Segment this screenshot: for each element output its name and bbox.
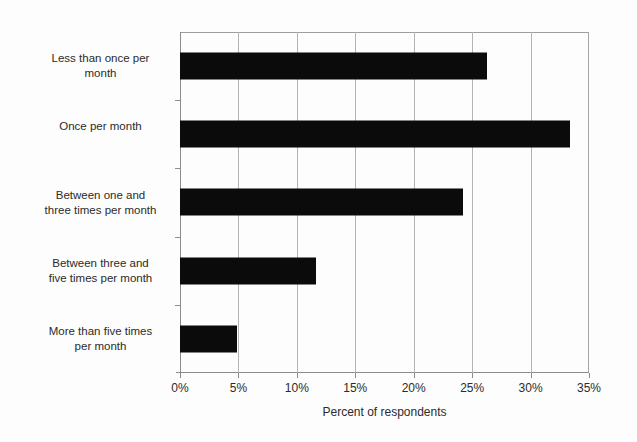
category-band [180, 305, 589, 373]
category-label: Between three and five times per month [28, 256, 173, 286]
x-tick [355, 373, 356, 378]
plot-area [180, 32, 589, 373]
x-tick-label: 10% [273, 381, 321, 395]
bar [180, 53, 487, 80]
x-tick-label: 15% [331, 381, 379, 395]
bar [180, 121, 570, 148]
bar [180, 257, 316, 284]
category-label: Between one and three times per month [28, 188, 173, 218]
category-band [180, 168, 589, 236]
x-axis-title: Percent of respondents [180, 405, 589, 419]
category-band [180, 237, 589, 305]
category-label: Less than once per month [28, 51, 173, 81]
x-tick-label: 20% [390, 381, 438, 395]
x-tick-label: 25% [448, 381, 496, 395]
x-tick-label: 35% [565, 381, 613, 395]
x-tick-label: 30% [507, 381, 555, 395]
category-label: More than five times per month [28, 324, 173, 354]
bar [180, 325, 237, 352]
x-tick [180, 373, 181, 378]
bar-chart-figure: Less than once per monthOnce per monthBe… [0, 0, 637, 442]
x-tick [472, 373, 473, 378]
x-tick [531, 373, 532, 378]
x-tick-label: 5% [214, 381, 262, 395]
category-label: Once per month [28, 119, 173, 134]
category-band [180, 100, 589, 168]
x-tick [589, 373, 590, 378]
bar [180, 189, 463, 216]
category-band [180, 32, 589, 100]
x-tick [297, 373, 298, 378]
x-tick-label: 0% [156, 381, 204, 395]
x-tick [238, 373, 239, 378]
x-tick [414, 373, 415, 378]
